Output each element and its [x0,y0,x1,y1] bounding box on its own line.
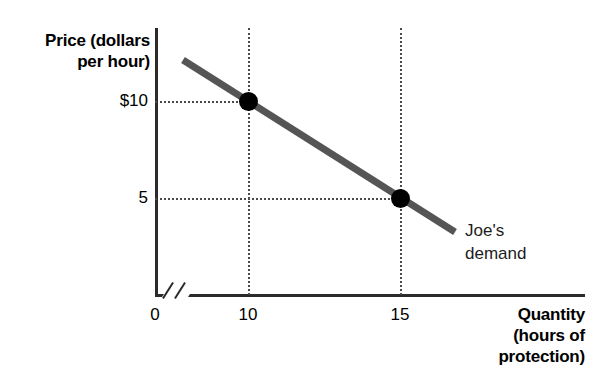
data-point-q15-p5[interactable] [391,189,410,208]
y-tick-label-10: $10 [88,91,148,111]
x-tick-label-0: 0 [125,305,185,325]
x-tick-label-10: 10 [218,305,278,325]
x-axis-line [155,294,585,297]
gridline-horizontal-p5 [155,198,402,200]
demand-curve-chart: Price (dollars per hour) Quantity (hours… [0,0,593,384]
y-axis-line [155,28,158,296]
gridline-horizontal-p10 [155,101,250,103]
x-tick-label-15: 15 [370,305,430,325]
gridline-vertical-q15 [400,28,402,295]
series-label-joes-demand: Joe's demand [465,219,526,265]
data-point-q10-p10[interactable] [239,92,258,111]
axis-break-icon [160,280,194,300]
y-axis-title: Price (dollars per hour) [0,30,150,72]
y-tick-label-5: 5 [88,188,148,208]
gridline-vertical-q10 [248,28,250,295]
